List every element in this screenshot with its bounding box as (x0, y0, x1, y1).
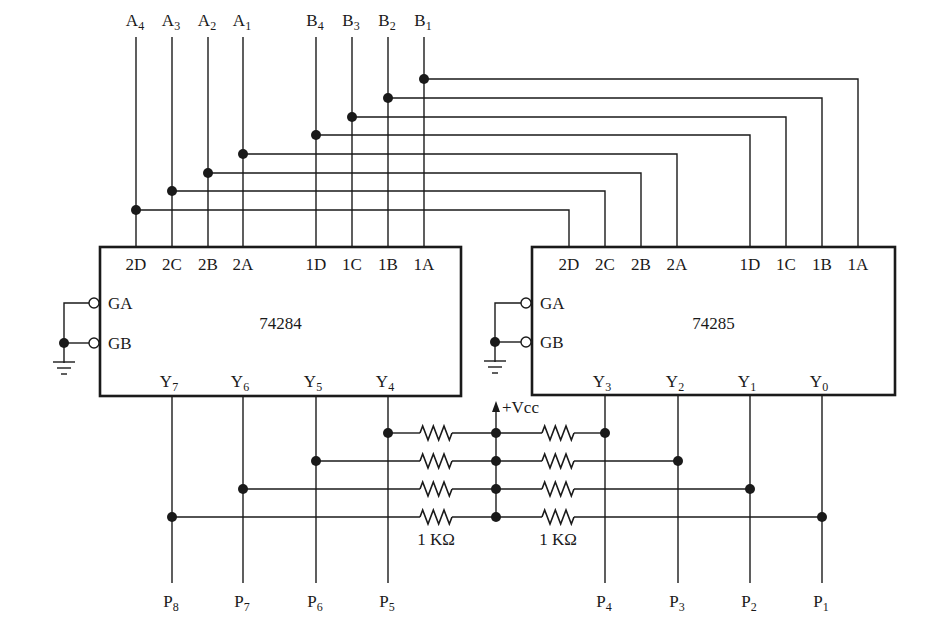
enable-pin-gb: GB (540, 333, 564, 352)
resistor-icon (542, 510, 574, 524)
product-label-p4: P4 (596, 592, 611, 614)
junction-dot (673, 456, 683, 466)
pin-label-2c: 2C (595, 255, 615, 274)
inverting-bubble (521, 337, 531, 347)
junction-dot (59, 338, 69, 348)
inverting-bubble (89, 298, 99, 308)
pin-label-1b: 1B (812, 255, 832, 274)
pin-label-1d: 1D (740, 255, 761, 274)
resistor-icon (420, 482, 452, 496)
resistor-icon (542, 426, 574, 440)
cross-wire (243, 154, 677, 247)
pin-label-1c: 1C (776, 255, 796, 274)
junction-dot (347, 112, 357, 122)
product-label-p7: P7 (234, 592, 249, 614)
junction-dot (745, 484, 755, 494)
junction-dot (203, 168, 213, 178)
vcc-arrow-icon (492, 401, 500, 412)
input-label-a3: A3 (162, 11, 180, 33)
resistor-icon (542, 482, 574, 496)
junction-dot (167, 186, 177, 196)
pin-label-2d: 2D (559, 255, 580, 274)
pin-label-2a: 2A (667, 255, 689, 274)
junction-dot (311, 130, 321, 140)
enable-pin-ga: GA (108, 294, 133, 313)
pin-label-2b: 2B (198, 255, 218, 274)
resistor-icon (420, 510, 452, 524)
junction-dot (491, 484, 501, 494)
resistor-icon (420, 454, 452, 468)
resistor-value-label: 1 KΩ (417, 530, 455, 549)
inverting-bubble (89, 338, 99, 348)
enable-pin-gb: GB (108, 334, 132, 353)
input-label-b3: B3 (342, 11, 359, 33)
chip-part-number: 74284 (259, 314, 302, 333)
junction-dot (311, 456, 321, 466)
product-label-p1: P1 (813, 592, 828, 614)
enable-tie-wire (64, 303, 89, 363)
junction-dot (490, 337, 500, 347)
resistor-icon (542, 454, 574, 468)
input-label-a1: A1 (233, 11, 251, 33)
pin-label-1a: 1A (848, 255, 870, 274)
pin-label-2c: 2C (162, 255, 182, 274)
pin-label-2b: 2B (631, 255, 651, 274)
junction-dot (491, 512, 501, 522)
input-label-a2: A2 (198, 11, 216, 33)
resistor-icon (420, 426, 452, 440)
input-label-b1: B1 (414, 11, 431, 33)
input-label-a4: A4 (126, 11, 144, 33)
junction-dot (817, 512, 827, 522)
junction-dot (383, 428, 393, 438)
vcc-label: +Vcc (502, 398, 539, 417)
chip-part-number: 74285 (692, 314, 735, 333)
product-label-p3: P3 (669, 592, 684, 614)
product-label-p5: P5 (379, 592, 394, 614)
junction-dot (131, 205, 141, 215)
junction-dot (491, 456, 501, 466)
junction-dot (238, 484, 248, 494)
resistor-value-label: 1 KΩ (539, 530, 577, 549)
product-label-p2: P2 (741, 592, 756, 614)
product-label-p8: P8 (163, 592, 178, 614)
input-label-b2: B2 (378, 11, 395, 33)
pin-label-1a: 1A (414, 255, 436, 274)
junction-dot (383, 93, 393, 103)
junction-dot (600, 428, 610, 438)
pin-label-2a: 2A (233, 255, 255, 274)
junction-dot (419, 74, 429, 84)
inverting-bubble (521, 298, 531, 308)
pin-label-1b: 1B (378, 255, 398, 274)
junction-dot (491, 428, 501, 438)
multiplier-schematic: A4A3A2A1B4B3B2B1742842D2C2B2A1D1C1B1AGAG… (0, 0, 939, 643)
enable-pin-ga: GA (540, 294, 565, 313)
input-label-b4: B4 (306, 11, 323, 33)
pin-label-1d: 1D (306, 255, 327, 274)
enable-tie-wire (495, 303, 521, 362)
pin-label-1c: 1C (342, 255, 362, 274)
junction-dot (167, 512, 177, 522)
junction-dot (238, 149, 248, 159)
product-label-p6: P6 (307, 592, 322, 614)
pin-label-2d: 2D (126, 255, 147, 274)
